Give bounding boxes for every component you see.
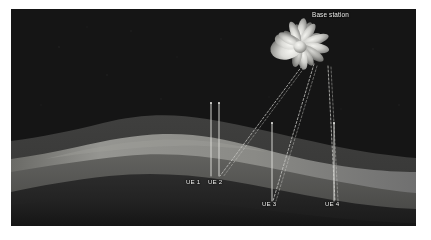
antenna-array-core: [294, 41, 307, 53]
scene-vector-layer: [11, 9, 416, 226]
ue-4-pole-tip: [333, 122, 335, 124]
terrain-scene: [11, 9, 416, 226]
ue-2-pole-tip: [218, 102, 220, 104]
ue-2-label: UE 2: [208, 178, 222, 186]
ue-3-label: UE 3: [262, 200, 276, 208]
ue-4-label: UE 4: [325, 200, 339, 208]
figure-root: Base station UE 1 UE 2 UE 3 UE 4: [0, 0, 431, 240]
ue-3-pole-tip: [271, 122, 273, 124]
ue-1-label: UE 1: [186, 178, 200, 186]
ue-1-pole-tip: [210, 102, 212, 104]
base-station-label: Base station: [312, 11, 349, 19]
